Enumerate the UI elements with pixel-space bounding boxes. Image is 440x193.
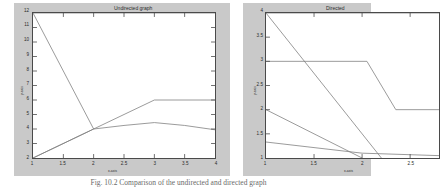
ytick-label-undirected-9: 11 bbox=[18, 23, 29, 28]
ytick-label-directed-2: 2 bbox=[248, 107, 263, 112]
plot-area-undirected bbox=[32, 12, 216, 159]
figure-panel-directed: Directed bbox=[243, 3, 371, 176]
ytick-label-undirected-0: 2 bbox=[18, 156, 29, 161]
xtickmarks-undirected bbox=[63, 13, 184, 158]
chart-title-directed: Directed bbox=[326, 6, 345, 11]
xtick-label-directed-2: 2 bbox=[354, 162, 370, 167]
xtick-label-undirected-0: 1 bbox=[24, 162, 40, 167]
series-rising-plateau bbox=[33, 100, 215, 158]
ytick-label-undirected-1: 3 bbox=[18, 141, 29, 146]
ytick-label-directed-1: 1.5 bbox=[248, 132, 263, 137]
ytick-label-undirected-6: 8 bbox=[18, 68, 29, 73]
yaxis-label-directed: y-axis bbox=[254, 86, 257, 95]
ytick-label-directed-6: 4 bbox=[248, 9, 263, 14]
series-mid-descent bbox=[266, 110, 362, 158]
xaxis-label-directed: x-axis bbox=[344, 170, 353, 173]
ytick-label-directed-4: 3 bbox=[248, 58, 263, 63]
xtick-label-directed-1: 1.5 bbox=[306, 162, 322, 167]
ytick-label-undirected-7: 9 bbox=[18, 53, 29, 58]
ytick-label-undirected-8: 10 bbox=[18, 38, 29, 43]
figure-caption: Fig. 10.2 Comparison of the undirected a… bbox=[0, 179, 357, 187]
yaxis-label-undirected: y-axis bbox=[21, 86, 24, 95]
ytick-label-undirected-10: 12 bbox=[18, 9, 29, 14]
series-plateau-step bbox=[266, 61, 439, 109]
chart-title-undirected: Undirected graph bbox=[114, 6, 152, 11]
xaxis-label-undirected: x-axis bbox=[108, 170, 117, 173]
xtick-label-directed-3: 2.5 bbox=[403, 162, 419, 167]
plot-lines-undirected bbox=[33, 13, 215, 158]
ytick-label-undirected-4: 6 bbox=[18, 97, 29, 102]
ytick-label-directed-0: 1 bbox=[248, 156, 263, 161]
figure-panel-undirected: Undirected graph bbox=[14, 3, 230, 176]
xtick-label-undirected-2: 2 bbox=[85, 162, 101, 167]
series-descending bbox=[33, 13, 94, 129]
ytick-label-undirected-3: 5 bbox=[18, 112, 29, 117]
xtick-label-undirected-6: 4 bbox=[208, 162, 224, 167]
xtick-label-undirected-4: 3 bbox=[147, 162, 163, 167]
series-steep-descent bbox=[266, 13, 381, 158]
xtick-label-undirected-5: 3.5 bbox=[177, 162, 193, 167]
plot-area-directed bbox=[265, 12, 440, 159]
plot-lines-directed bbox=[266, 13, 439, 158]
xtick-label-undirected-3: 2.5 bbox=[116, 162, 132, 167]
ytickmarks-directed bbox=[266, 37, 270, 134]
xtick-label-directed-0: 1 bbox=[257, 162, 273, 167]
xtickmarks-directed bbox=[314, 13, 410, 158]
xtick-label-undirected-1: 1.5 bbox=[55, 162, 71, 167]
ytick-label-directed-5: 3.5 bbox=[248, 34, 263, 39]
series-shallow-arc bbox=[33, 123, 215, 158]
ytick-label-undirected-2: 4 bbox=[18, 126, 29, 131]
